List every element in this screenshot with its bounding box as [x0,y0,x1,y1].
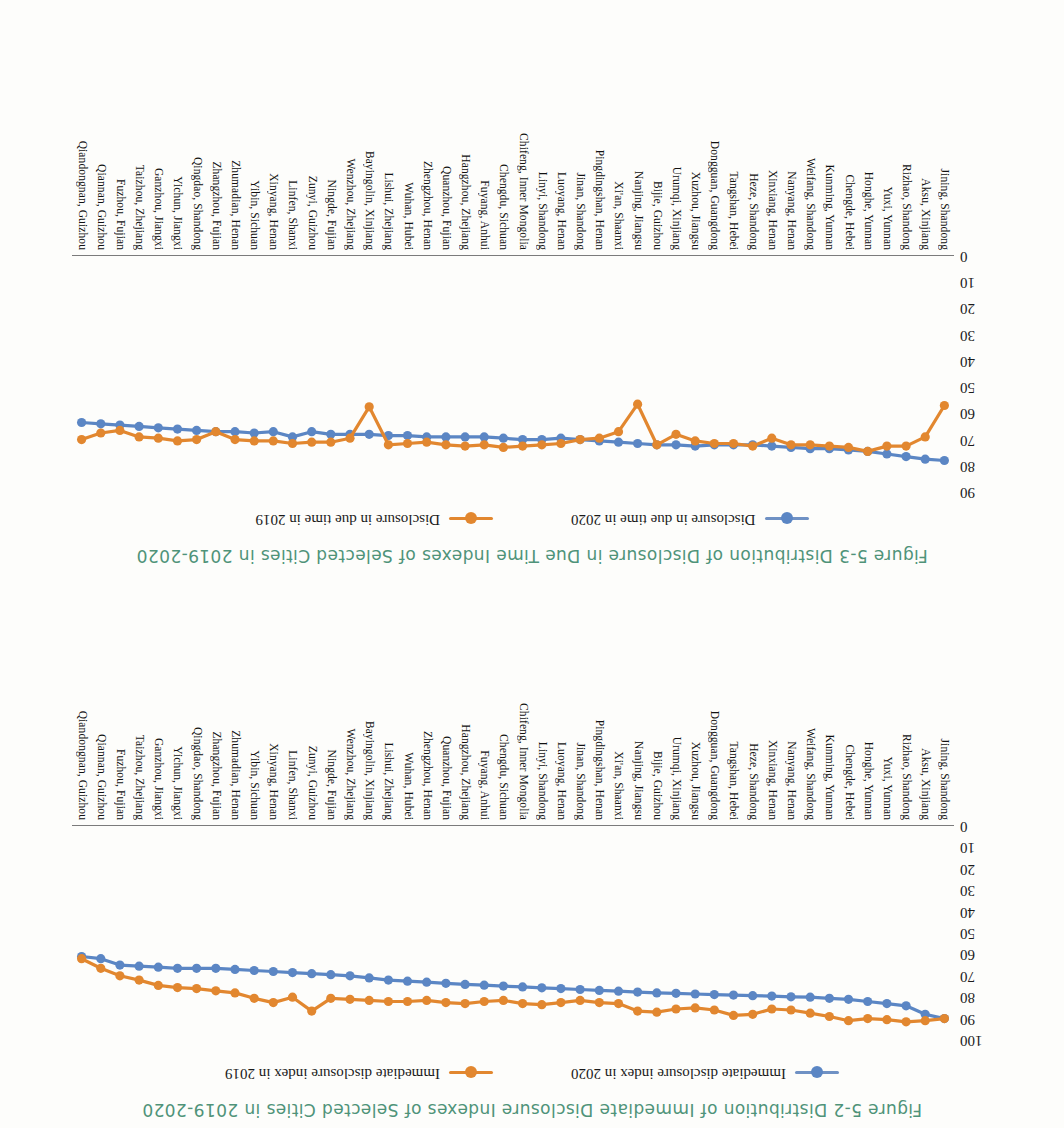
plot-area-immediate: 0102030405060708090100 Jining, ShandongA… [72,594,1000,1046]
figure-immediate-disclosure: Immediate disclosure index in 2020 Immed… [0,568,1064,1128]
x-tick-label: Pingdingshan, Henan [594,150,606,250]
data-point-marker [115,961,124,970]
data-point-marker [307,438,316,447]
data-point-marker [441,998,450,1007]
data-point-marker [96,954,105,963]
x-tick-label: Nanjing, Jiangsu [633,171,645,250]
data-point-marker [345,434,354,443]
data-point-marker [748,442,757,451]
x-tick-label: Xinyang, Henan [268,743,280,820]
x-tick-label: Zhumadian, Henan [230,160,242,250]
data-point-marker [480,997,489,1006]
data-point-marker [134,432,143,441]
data-point-marker [461,999,470,1008]
legend-item-immediate-2020: Immediate disclosure index in 2020 [571,1065,839,1082]
y-tick-label: 30 [960,326,975,343]
x-tick-label: Bijie, Guizhou [652,181,664,250]
data-point-marker [902,1001,911,1010]
data-point-marker [825,994,834,1003]
data-point-marker [461,980,470,989]
data-point-marker [250,428,259,437]
x-tick-label: Rizhao, Shandong [901,164,913,250]
x-tick-label: Aksu, Xinjiang [920,178,932,250]
x-tick-label: Qiannan, Guizhou [96,734,108,820]
data-point-marker [614,999,623,1008]
data-point-marker [422,978,431,987]
data-point-marker [441,979,450,988]
x-tick-label: Linfen, Shanxi [288,180,300,250]
x-tick-label: Xi'an, Shaanxi [613,181,625,250]
data-point-marker [595,998,604,1007]
x-tick-label: Hangzhou, Zhejiang [460,724,472,820]
legend-item-duetime-2019: Disclosure in due time in 2019 [255,511,493,528]
y-tick-label: 20 [960,860,975,877]
x-tick-label: Tangshan, Hebei [729,741,741,820]
data-point-marker [729,991,738,1000]
data-point-marker [269,436,278,445]
data-point-marker [269,998,278,1007]
x-tick-label: Qingdao, Shandong [192,727,204,820]
data-point-marker [556,984,565,993]
y-tick-label: 40 [960,352,975,369]
x-tick-label: Dongguan, Guangdong [709,711,721,820]
x-tick-label: Xinyang, Henan [268,173,280,250]
data-point-marker [844,443,853,452]
x-tick-label: Chengdu, Sichuan [498,164,510,250]
data-point-marker [154,963,163,972]
x-tick-label: Jining, Shandong [939,739,951,820]
x-tick-label: Yichun, Jiangxi [172,176,184,250]
data-point-marker [940,456,949,465]
data-point-marker [671,1004,680,1013]
x-tick-label: Wenzhou, Zhejiang [345,729,357,820]
data-point-marker [652,1008,661,1017]
y-tick-label: 10 [960,839,975,856]
data-point-marker [365,430,374,439]
data-point-marker [710,990,719,999]
data-point-marker [480,981,489,990]
y-tick-label: 30 [960,882,975,899]
data-point-marker [77,954,86,963]
data-point-marker [921,455,930,464]
y-tick-label: 80 [960,457,975,474]
data-point-marker [403,431,412,440]
x-tick-label: Ningde, Fujian [326,180,338,250]
data-point-marker [729,439,738,448]
data-point-marker [134,422,143,431]
data-point-marker [556,439,565,448]
x-tick-label: Qiandongnan, Guizhou [77,141,89,250]
data-point-marker [863,997,872,1006]
data-point-marker [269,967,278,976]
legend-item-duetime-2020: Disclosure in due time in 2020 [571,511,809,528]
data-point-marker [345,995,354,1004]
x-tick-label: Wuhan, Hubei [403,182,415,250]
x-tick-label: Xinxiang, Henan [767,740,779,820]
data-point-marker [230,988,239,997]
data-point-marker [480,432,489,441]
data-point-marker [365,402,374,411]
data-point-marker [326,430,335,439]
data-point-marker [499,443,508,452]
x-tick-label: Nanjing, Jiangsu [633,741,645,820]
data-point-marker [173,983,182,992]
x-tick-label: Zhangzhou, Fujian [211,161,223,250]
data-point-marker [403,997,412,1006]
data-point-marker [576,996,585,1005]
data-point-marker [825,442,834,451]
x-tick-label: Zhengzhou, Henan [422,161,434,250]
data-point-marker [767,1004,776,1013]
legend-label-duetime-2019: Disclosure in due time in 2019 [255,511,440,528]
figure-title-duetime: Figure 5-3 Distribution of Disclosure in… [0,546,1064,566]
x-tick-label: Honghe, Yunnan [863,742,875,820]
data-point-marker [806,440,815,449]
y-tick-label: 0 [960,248,968,265]
data-point-marker [786,440,795,449]
y-tick-label: 50 [960,925,975,942]
x-tick-label: Bayingolin, Xinjiang [364,151,376,250]
x-tick-label: Fuzhou, Fujian [115,179,127,250]
x-tick-label: Lishui, Zhejiang [383,742,395,820]
x-tick-label: Tangshan, Hebei [729,171,741,250]
x-tick-label: Yuxi, Yunnan [882,757,894,820]
data-point-marker [576,435,585,444]
x-tick-label: Quanzhou, Fujian [441,736,453,820]
x-tick-label: Jinan, Shandong [575,742,587,820]
